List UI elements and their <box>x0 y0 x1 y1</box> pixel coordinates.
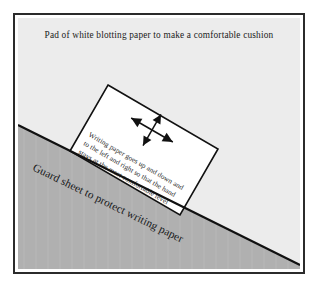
blotting-pad-area: Pad of white blotting paper to make a co… <box>18 18 300 269</box>
illustration-writing-slope: Pad of white blotting paper to make a co… <box>0 0 319 287</box>
scene-graphic: Writing paper goes up and down and to th… <box>18 18 300 269</box>
